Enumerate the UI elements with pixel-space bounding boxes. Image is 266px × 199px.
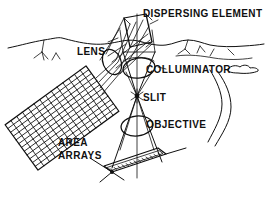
label-lens: LENS — [77, 46, 105, 57]
spectrometer-diagram: DISPERSING ELEMENT LENS COLLUMINATOR SLI… — [0, 0, 266, 199]
label-area-arrays-line1: AREA — [58, 137, 88, 148]
label-area-arrays-line2: ARRAYS — [58, 150, 102, 161]
label-objective: OBJECTIVE — [146, 119, 206, 130]
label-slit: SLIT — [143, 92, 166, 103]
label-colluminator: COLLUMINATOR — [146, 64, 231, 75]
label-dispersing-element: DISPERSING ELEMENT — [143, 8, 262, 19]
diagram-canvas: DISPERSING ELEMENT LENS COLLUMINATOR SLI… — [0, 0, 266, 199]
